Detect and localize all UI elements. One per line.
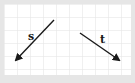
vector-s-label: s [28,30,34,43]
grid [4,4,131,75]
vector-diagram: s t [0,0,135,83]
